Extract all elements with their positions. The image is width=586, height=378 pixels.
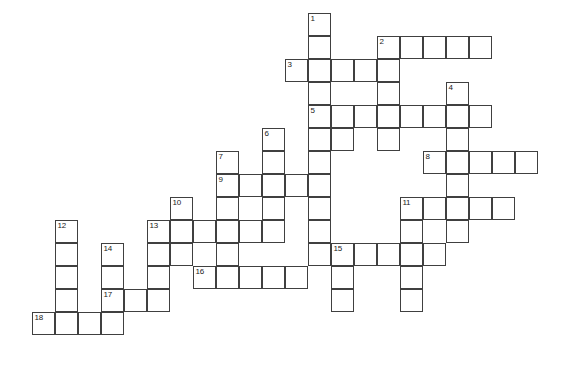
crossword-cell-start-17[interactable]: 17 [101, 289, 124, 312]
crossword-cell[interactable] [331, 289, 354, 312]
crossword-cell-start-9[interactable]: 9 [216, 174, 239, 197]
cell-number-9: 9 [219, 175, 223, 184]
crossword-cell[interactable] [101, 312, 124, 335]
cell-number-16: 16 [196, 267, 204, 276]
cell-number-18: 18 [35, 313, 43, 322]
crossword-cell[interactable] [377, 82, 400, 105]
crossword-cell[interactable] [147, 266, 170, 289]
crossword-cell[interactable] [216, 243, 239, 266]
crossword-cell-start-18[interactable]: 18 [32, 312, 55, 335]
crossword-cell[interactable] [124, 289, 147, 312]
crossword-cell-start-15[interactable]: 15 [331, 243, 354, 266]
crossword-cell[interactable] [147, 243, 170, 266]
crossword-cell[interactable] [262, 197, 285, 220]
crossword-cell[interactable] [78, 312, 101, 335]
crossword-cell[interactable] [469, 105, 492, 128]
crossword-cell[interactable] [354, 59, 377, 82]
crossword-cell[interactable] [354, 243, 377, 266]
crossword-cell[interactable] [262, 266, 285, 289]
crossword-puzzle: 123456879101113121415161718 [0, 0, 586, 378]
crossword-cell[interactable] [377, 59, 400, 82]
crossword-cell[interactable] [262, 220, 285, 243]
crossword-cell-start-16[interactable]: 16 [193, 266, 216, 289]
crossword-cell-start-8[interactable]: 8 [423, 151, 446, 174]
crossword-cell[interactable] [170, 243, 193, 266]
crossword-cell[interactable] [446, 36, 469, 59]
crossword-cell[interactable] [239, 266, 262, 289]
crossword-cell[interactable] [147, 289, 170, 312]
crossword-cell-start-10[interactable]: 10 [170, 197, 193, 220]
crossword-cell-start-2[interactable]: 2 [377, 36, 400, 59]
cell-number-6: 6 [265, 129, 269, 138]
crossword-cell[interactable] [308, 151, 331, 174]
crossword-cell[interactable] [331, 105, 354, 128]
crossword-cell[interactable] [170, 220, 193, 243]
crossword-cell-start-13[interactable]: 13 [147, 220, 170, 243]
crossword-cell-start-14[interactable]: 14 [101, 243, 124, 266]
crossword-cell[interactable] [492, 151, 515, 174]
crossword-cell[interactable] [308, 197, 331, 220]
crossword-cell[interactable] [515, 151, 538, 174]
crossword-cell[interactable] [492, 197, 515, 220]
crossword-cell[interactable] [331, 128, 354, 151]
crossword-cell[interactable] [101, 266, 124, 289]
crossword-cell[interactable] [285, 266, 308, 289]
crossword-cell[interactable] [262, 174, 285, 197]
crossword-cell-start-7[interactable]: 7 [216, 151, 239, 174]
crossword-cell[interactable] [469, 197, 492, 220]
crossword-cell[interactable] [377, 128, 400, 151]
crossword-cell[interactable] [469, 151, 492, 174]
crossword-cell[interactable] [446, 197, 469, 220]
crossword-cell[interactable] [262, 151, 285, 174]
crossword-cell[interactable] [216, 220, 239, 243]
crossword-cell-start-12[interactable]: 12 [55, 220, 78, 243]
crossword-cell[interactable] [354, 105, 377, 128]
crossword-cell[interactable] [400, 266, 423, 289]
crossword-cell[interactable] [285, 174, 308, 197]
crossword-cell[interactable] [216, 266, 239, 289]
crossword-cell[interactable] [400, 36, 423, 59]
crossword-cell[interactable] [308, 220, 331, 243]
crossword-cell[interactable] [216, 197, 239, 220]
crossword-cell[interactable] [423, 197, 446, 220]
crossword-cell[interactable] [446, 151, 469, 174]
cell-number-13: 13 [150, 221, 158, 230]
crossword-cell[interactable] [308, 82, 331, 105]
crossword-cell[interactable] [308, 59, 331, 82]
crossword-cell[interactable] [308, 128, 331, 151]
crossword-cell[interactable] [193, 220, 216, 243]
crossword-cell-start-6[interactable]: 6 [262, 128, 285, 151]
crossword-cell[interactable] [331, 59, 354, 82]
crossword-cell[interactable] [55, 266, 78, 289]
cell-number-14: 14 [104, 244, 112, 253]
crossword-cell[interactable] [423, 105, 446, 128]
crossword-cell-start-3[interactable]: 3 [285, 59, 308, 82]
crossword-cell[interactable] [239, 174, 262, 197]
crossword-cell[interactable] [423, 243, 446, 266]
crossword-cell[interactable] [308, 243, 331, 266]
crossword-cell[interactable] [55, 243, 78, 266]
crossword-cell[interactable] [239, 220, 262, 243]
crossword-cell[interactable] [400, 243, 423, 266]
crossword-cell[interactable] [423, 36, 446, 59]
crossword-cell-start-1[interactable]: 1 [308, 13, 331, 36]
crossword-cell[interactable] [55, 289, 78, 312]
crossword-cell-start-5[interactable]: 5 [308, 105, 331, 128]
crossword-cell[interactable] [308, 36, 331, 59]
crossword-cell[interactable] [400, 220, 423, 243]
crossword-cell[interactable] [446, 128, 469, 151]
crossword-cell[interactable] [446, 105, 469, 128]
crossword-cell[interactable] [446, 174, 469, 197]
crossword-cell[interactable] [55, 312, 78, 335]
crossword-cell[interactable] [377, 105, 400, 128]
crossword-cell[interactable] [400, 289, 423, 312]
crossword-cell[interactable] [446, 220, 469, 243]
crossword-cell[interactable] [469, 36, 492, 59]
crossword-grid[interactable]: 123456879101113121415161718 [0, 0, 586, 378]
crossword-cell[interactable] [400, 105, 423, 128]
crossword-cell-start-4[interactable]: 4 [446, 82, 469, 105]
crossword-cell-start-11[interactable]: 11 [400, 197, 423, 220]
crossword-cell[interactable] [308, 174, 331, 197]
crossword-cell[interactable] [377, 243, 400, 266]
crossword-cell[interactable] [331, 266, 354, 289]
